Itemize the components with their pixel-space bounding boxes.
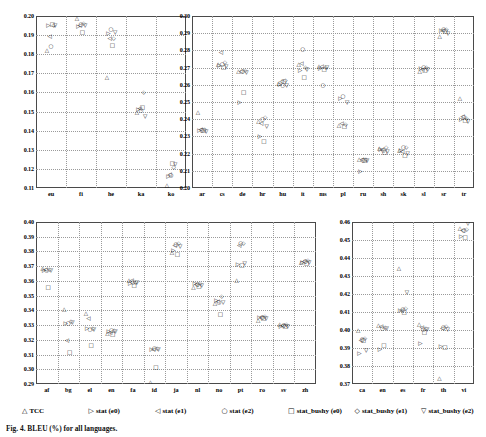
chart-panel-bottom-right: △△△△△△▷▷▷▷▷▷◁◁◁◁◁◁○○○○○○□□□□□□◇◇◇◇◇◇▽▽▽▽… [352,222,474,384]
data-point: ▽ [70,320,74,326]
data-point: ▽ [364,348,368,354]
y-axis-tick-label: 0.40 [24,219,36,225]
x-axis-tick-label-sh: sh [380,190,386,197]
x-gridline [372,222,373,384]
y-axis-tick-label: 0.39 [24,234,36,240]
data-point: □ [140,105,145,111]
x-gridline [156,16,157,188]
data-point: ○ [320,83,325,89]
data-point: ▷ [357,351,361,357]
data-point: ◁ [47,34,51,40]
data-point: ▽ [325,65,329,71]
x-axis-tick-label-ar: ar [199,190,205,197]
data-point: □ [175,252,180,258]
x-gridline [414,16,415,188]
y-axis-tick-label: 0.21 [180,168,192,174]
y-axis-tick-label: 0.23 [180,133,192,139]
x-axis-tick-label-sr: sr [441,190,446,197]
y-axis-tick-label: 0.11 [24,185,36,191]
x-gridline [434,16,435,188]
legend: △TCC▷stat (e0)◁stat (e1)○stat (e2)□stat_… [0,404,486,418]
x-gridline [433,222,434,384]
legend-marker-icon: ▷ [89,407,94,415]
x-axis-tick-label-en: en [108,386,114,393]
y-axis-tick-label: 0.44 [340,255,352,261]
data-point: ▽ [113,329,117,335]
y-axis-tick-label: 0.38 [340,363,352,369]
grid-layer: △△△△△△△△△△△△△△▷▷▷▷▷▷▷▷▷▷▷▷▷▷◁◁◁◁◁◁◁◁◁◁◁◁… [192,16,474,188]
x-gridline [373,16,374,188]
data-point: △ [458,96,462,102]
y-gridline [36,369,316,370]
y-axis-tick-label: 0.27 [180,65,192,71]
x-axis-tick-label-fr: fr [421,386,426,393]
x-axis-tick-label-de: de [239,190,245,197]
y-axis-tick-label: 0.16 [24,89,36,95]
y-gridline [36,355,316,356]
data-point: △ [196,110,200,116]
x-gridline [230,222,231,384]
x-axis-tick-label-it: it [301,190,305,197]
data-point: ○ [300,47,305,53]
data-point: ▷ [418,341,422,347]
data-point: ▽ [305,67,309,73]
data-point: □ [153,365,158,371]
data-point: ○ [169,173,174,179]
x-axis-tick-label-hr: hr [259,190,265,197]
legend-marker-icon: ◇ [355,407,360,415]
y-axis-tick-label: 0.37 [340,381,352,387]
x-axis-tick-label-he: he [108,190,114,197]
data-point: □ [110,43,115,49]
y-axis-tick-label: 0.40 [340,327,352,333]
data-point: ◇ [263,115,267,121]
data-point: ◁ [65,338,69,344]
y-axis-tick-label: 0.30 [24,366,36,372]
legend-label: stat_bushy (e2) [428,407,473,415]
data-point: △ [397,266,401,272]
x-gridline [101,222,102,384]
data-point: □ [241,90,246,96]
y-axis-tick-label: 0.30 [180,13,192,19]
legend-marker-icon: △ [22,407,27,415]
data-point: ◁ [86,316,90,322]
y-axis-tick-label: 0.31 [24,352,36,358]
x-gridline [393,16,394,188]
y-gridline [36,73,186,74]
data-point: ▽ [345,101,349,107]
x-axis-tick-label-ru: ru [360,190,366,197]
data-point: ▽ [224,64,228,70]
x-axis-tick-label-sk: sk [401,190,407,197]
y-axis-tick-label: 0.25 [180,99,192,105]
data-point: ▽ [221,300,225,306]
legend-item: ▽stat_bushy (e2) [421,407,474,415]
y-axis-tick-label: 0.24 [180,116,192,122]
data-point: ▽ [113,30,117,36]
x-gridline [208,222,209,384]
data-point: ◇ [142,90,146,96]
x-axis-tick-label-ka: ka [138,190,145,197]
y-axis-tick-label: 0.13 [24,147,36,153]
data-point: ▽ [244,70,248,76]
y-gridline [36,237,316,238]
legend-label: TCC [29,407,44,415]
y-axis-tick-label: 0.42 [340,291,352,297]
data-point: ▽ [243,261,247,267]
data-point: ▽ [204,129,208,135]
x-axis-tick-label-sv: sv [281,386,287,393]
x-axis-tick-label-fa: fa [130,386,135,393]
data-point: ▽ [264,316,268,322]
legend-item: △TCC [22,407,44,415]
data-point: △ [165,183,169,188]
data-point: ▽ [307,260,311,266]
y-gridline [36,169,186,170]
x-axis-tick-label-vi: vi [461,386,466,393]
data-point: △ [148,380,152,384]
legend-item: ○stat (e2) [222,407,254,415]
data-point: △ [62,308,66,314]
y-axis-tick-label: 0.46 [340,219,352,225]
x-axis-tick-label-id: id [152,386,157,393]
x-gridline [122,222,123,384]
data-point: △ [438,34,442,40]
x-axis-tick-label-ja: ja [173,386,178,393]
legend-marker-icon: ○ [222,407,228,415]
